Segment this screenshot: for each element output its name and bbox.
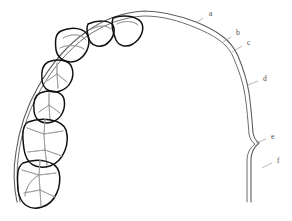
figure-container: abcdef xyxy=(0,0,292,221)
dental-arch-diagram: abcdef xyxy=(0,0,292,221)
label-d: d xyxy=(263,74,267,83)
label-b: b xyxy=(236,28,240,37)
figure-background xyxy=(0,0,292,221)
